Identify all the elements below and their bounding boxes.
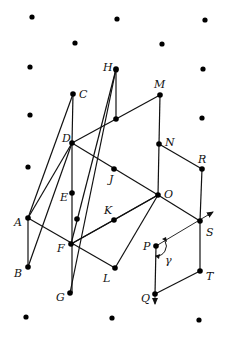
diagram-canvas: γ ABCDEFGHJKLMNOPQRST: [0, 0, 229, 338]
label-g: G: [56, 291, 65, 304]
label-b: B: [13, 267, 22, 280]
point-q: [152, 291, 158, 297]
point-g: [67, 290, 73, 296]
point-p: [153, 243, 159, 249]
point-o: [155, 192, 161, 198]
point-k: [111, 217, 117, 223]
lattice-dot: [200, 66, 205, 71]
label-r: R: [197, 153, 206, 166]
segment: [158, 144, 159, 195]
point-n: [156, 141, 162, 147]
lattice-dot: [159, 41, 164, 46]
point-c: [70, 91, 76, 97]
point-l: [112, 265, 118, 271]
lattice-dot: [114, 16, 119, 21]
lattice-dot: [72, 40, 77, 45]
segment: [155, 246, 156, 294]
vector-arrow: [156, 212, 213, 246]
label-n: N: [164, 136, 175, 149]
point-m: [157, 92, 163, 98]
label-l: L: [102, 272, 110, 285]
point-s: [197, 218, 203, 224]
segment: [159, 95, 160, 144]
point-f: [68, 241, 74, 247]
intersection-point: [74, 216, 80, 222]
angle-label: γ: [165, 254, 172, 267]
lattice-dot: [27, 112, 32, 117]
label-f: F: [56, 242, 65, 255]
label-h: H: [102, 61, 113, 74]
point-h: [113, 66, 119, 72]
point-a: [25, 215, 31, 221]
label-a: A: [13, 216, 22, 229]
segment: [28, 143, 72, 267]
lattice-dot: [25, 164, 30, 169]
lattice-dot: [29, 14, 34, 19]
point-r: [199, 166, 205, 172]
lattice-dot: [199, 115, 204, 120]
segments: [28, 69, 202, 294]
label-j: J: [107, 173, 114, 186]
segment: [115, 195, 158, 268]
lattice-dot: [196, 317, 201, 322]
point-j: [111, 166, 117, 172]
label-d: D: [61, 132, 71, 145]
label-q: Q: [141, 292, 150, 305]
lattice-dot: [202, 17, 207, 22]
point-t: [197, 268, 203, 274]
label-o: O: [164, 188, 173, 201]
label-k: K: [103, 204, 113, 217]
label-e: E: [59, 191, 68, 204]
segment: [200, 169, 202, 221]
lattice-dot: [23, 314, 28, 319]
segment: [72, 94, 73, 143]
label-s: S: [206, 226, 214, 239]
label-c: C: [79, 88, 88, 101]
segment: [155, 271, 200, 294]
point-b: [25, 264, 31, 270]
lattice-dot: [27, 64, 32, 69]
label-t: T: [206, 270, 215, 283]
labeled-points: [25, 66, 205, 297]
label-m: M: [153, 78, 166, 91]
point-e: [69, 190, 75, 196]
label-p: P: [142, 240, 151, 253]
intersection-point: [113, 116, 119, 122]
lattice-dot: [109, 315, 114, 320]
